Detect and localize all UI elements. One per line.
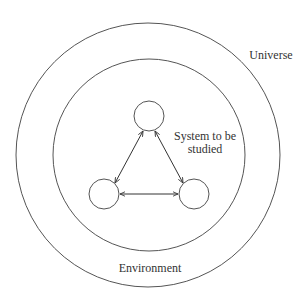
- node-bottom-right: [179, 179, 209, 209]
- node-top: [134, 101, 164, 131]
- universe-boundary: [16, 23, 280, 287]
- system-label-line2: studied: [188, 142, 223, 156]
- system-label-line1: System to be: [174, 129, 236, 143]
- environment-label: Environment: [119, 261, 182, 275]
- system-diagram: Universe System to be studied Environmen…: [0, 0, 303, 302]
- node-bottom-left: [89, 179, 119, 209]
- universe-label: Universe: [249, 48, 292, 62]
- edge-top-bottom-left: [115, 131, 143, 183]
